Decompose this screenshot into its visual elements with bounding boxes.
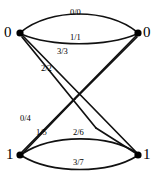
trellis-graph-canvas xyxy=(0,0,157,176)
edge-label-0-4: 0/4 xyxy=(20,114,31,123)
state-transition-diagram: 0 0 1 1 0/0 1/1 3/3 2/2 0/4 1/5 2/6 3/7 xyxy=(0,0,157,176)
edge-label-0-0: 0/0 xyxy=(70,8,81,17)
node-label-state-1-left: 1 xyxy=(6,147,14,162)
edge-label-1-1: 1/1 xyxy=(70,33,81,42)
edge-1-5-path xyxy=(23,99,75,153)
node-dot-state-1-right xyxy=(134,151,141,158)
edge-1-5-path-tail xyxy=(75,37,137,99)
node-label-state-0-left: 0 xyxy=(4,25,12,40)
edge-label-2-2: 2/2 xyxy=(41,64,52,73)
node-dot-state-0-left xyxy=(16,29,23,36)
edge-label-3-7: 3/7 xyxy=(73,158,84,167)
node-dot-state-1-left xyxy=(16,151,23,158)
node-label-state-0-right: 0 xyxy=(143,25,151,40)
edge-label-2-6: 2/6 xyxy=(73,128,84,137)
node-dot-state-0-right xyxy=(134,29,141,36)
edge-2-6-path xyxy=(22,139,137,154)
edge-label-3-3: 3/3 xyxy=(57,47,68,56)
node-label-state-1-right: 1 xyxy=(143,147,151,162)
edge-label-1-5: 1/5 xyxy=(36,128,47,137)
